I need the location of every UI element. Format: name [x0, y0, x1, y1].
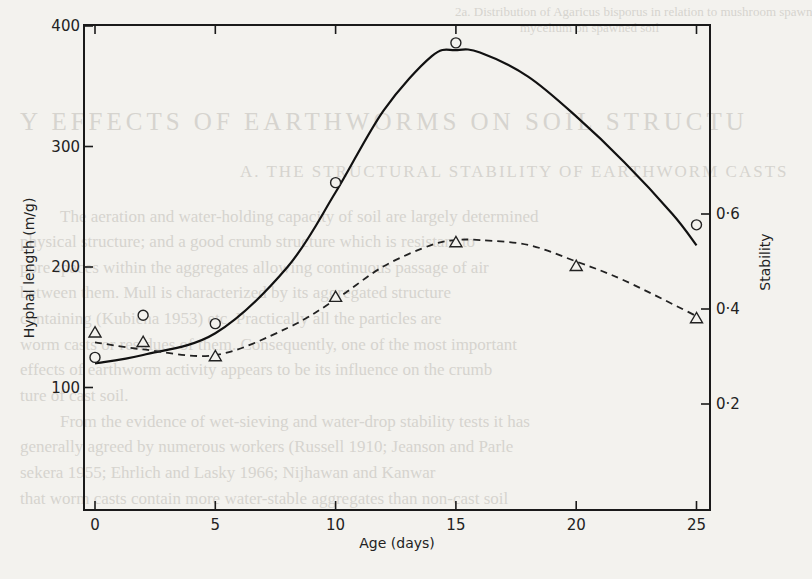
triangle-marker-icon — [137, 336, 149, 346]
plot-frame — [84, 25, 710, 510]
circle-marker-icon — [692, 220, 702, 230]
x-tick-label: 15 — [446, 516, 465, 534]
triangle-marker-icon — [89, 327, 101, 337]
y-tick-label: 400 — [51, 17, 80, 35]
dashed-curve — [95, 240, 697, 357]
x-tick-label: 0 — [90, 516, 100, 534]
y2-tick-label: 0·6 — [716, 205, 740, 223]
x-tick-label: 10 — [326, 516, 345, 534]
solid-curve — [95, 49, 697, 363]
triangle-marker-icon — [209, 351, 221, 361]
y-tick-label: 300 — [51, 138, 80, 156]
y-tick-label: 100 — [51, 379, 80, 397]
y-axis-title: Hyphal length (m/g) — [21, 198, 37, 339]
circle-marker-icon — [331, 178, 341, 188]
x-axis: 0510152025 — [90, 25, 706, 534]
y-axis-right: 0·20·40·6 — [701, 205, 740, 413]
x-tick-label: 25 — [687, 516, 706, 534]
y-tick-label: 200 — [51, 258, 80, 276]
triangle-marker-icon — [450, 237, 462, 247]
circle-marker-icon — [451, 38, 461, 48]
triangle-marker-icon — [330, 291, 342, 301]
y2-tick-label: 0·4 — [716, 300, 740, 318]
x-tick-label: 20 — [567, 516, 586, 534]
circle-marker-icon — [138, 310, 148, 320]
series-layer — [89, 38, 703, 364]
circle-marker-icon — [90, 352, 100, 362]
y2-axis-title: Stability — [757, 233, 773, 290]
triangle-marker-icon — [570, 260, 582, 270]
series-hyphal-length — [90, 38, 702, 364]
x-tick-label: 5 — [211, 516, 221, 534]
circle-marker-icon — [210, 319, 220, 329]
y2-tick-label: 0·2 — [716, 395, 740, 413]
series-stability — [89, 237, 703, 361]
y-axis-left: 100200300400 — [51, 17, 93, 397]
x-axis-title: Age (days) — [359, 535, 435, 551]
